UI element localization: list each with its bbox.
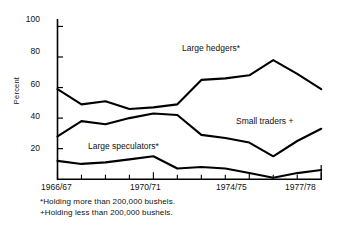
series-line-large-speculators xyxy=(58,156,322,177)
figure-container: Percent 100 80 60 40 20 1966/67 1970/71 … xyxy=(0,0,347,231)
series-annotation-large-speculators: Large speculators* xyxy=(88,142,159,151)
series-annotation-large-hedgers: Large hedgers* xyxy=(182,44,240,53)
series-line-large-hedgers xyxy=(58,60,322,109)
footnote-asterisk: *Holding more than 200,000 bushels. xyxy=(40,196,175,207)
footnotes: *Holding more than 200,000 bushels. +Hol… xyxy=(40,196,175,218)
footnote-plus: +Holding less than 200,000 bushels. xyxy=(40,207,175,218)
series-annotation-small-traders: Small traders + xyxy=(236,117,293,126)
y-axis-tick-marks xyxy=(58,26,64,148)
